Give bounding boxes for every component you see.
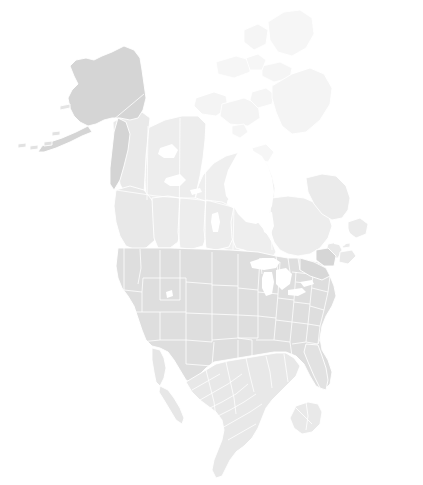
region-alberta[interactable] [152,196,182,248]
map-container[interactable] [0,0,423,485]
north-america-map[interactable] [0,0,423,485]
